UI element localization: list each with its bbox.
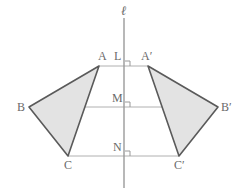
point-label-M: M: [112, 92, 123, 104]
vertex-label-B: B: [17, 101, 25, 113]
vertex-label-A-prime: A′: [141, 50, 152, 62]
right-angle-markers: [125, 61, 130, 156]
triangle-abc-prime: [148, 66, 218, 156]
triangle-abc: [29, 66, 99, 156]
geometry-canvas: [0, 0, 247, 194]
point-label-N: N: [113, 141, 122, 153]
vertex-label-A: A: [98, 50, 107, 62]
vertex-label-C-prime: C′: [174, 159, 185, 171]
geometry-figure: ℓ A A′ B B′ C C′ L M N: [0, 0, 247, 194]
point-label-L: L: [114, 50, 121, 62]
right-angle-marker-N: [125, 151, 130, 156]
mirror-line-label: ℓ: [121, 4, 126, 17]
right-angle-marker-M: [125, 102, 130, 107]
vertex-label-B-prime: B′: [221, 101, 232, 113]
right-angle-marker-L: [125, 61, 130, 66]
vertex-label-C: C: [64, 159, 72, 171]
